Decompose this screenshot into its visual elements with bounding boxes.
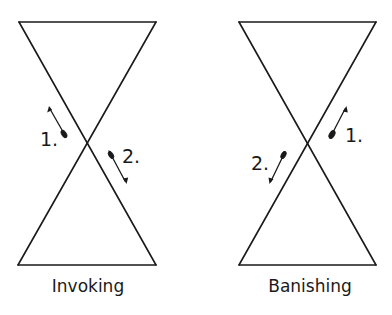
fletching-icon xyxy=(280,150,288,159)
fletching-icon xyxy=(60,129,68,139)
invoking-caption: Invoking xyxy=(52,276,124,296)
arrow-head-icon xyxy=(343,106,348,113)
invoking-figure: 1. 2. Invoking xyxy=(18,22,156,296)
banishing-step-1-label: 1. xyxy=(345,124,363,146)
banishing-arrow-2 xyxy=(269,150,288,184)
invoking-step-2-label: 2. xyxy=(122,145,140,167)
fletching-icon xyxy=(328,129,337,139)
arrow-head-icon xyxy=(123,178,128,185)
banishing-figure: 1. 2. Banishing xyxy=(239,22,376,296)
banishing-step-2-label: 2. xyxy=(251,152,269,174)
invoking-step-1-label: 1. xyxy=(40,128,58,150)
pentagram-hourglass-diagram: 1. 2. Invoking 1. 2. Banishing xyxy=(0,0,392,315)
fletching-icon xyxy=(107,150,115,159)
banishing-caption: Banishing xyxy=(268,276,352,296)
